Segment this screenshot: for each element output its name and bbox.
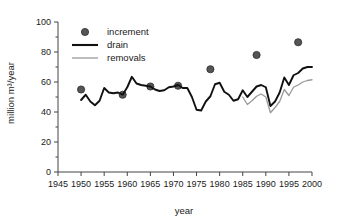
x-axis-tick-label: 1990: [256, 179, 276, 189]
x-axis-tick-label: 1960: [117, 179, 137, 189]
legend-label-increment: increment: [107, 26, 149, 37]
x-axis-tick-label: 1995: [279, 179, 299, 189]
y-axis-title: million m³/year: [5, 62, 16, 124]
y-axis-tick-label: 100: [36, 17, 51, 27]
x-axis-tick-label: 2000: [302, 179, 322, 189]
x-axis-tick-label: 1975: [187, 179, 207, 189]
x-axis-title: year: [175, 205, 193, 216]
x-axis-tick-label: 1970: [163, 179, 183, 189]
y-axis-tick-label: 20: [41, 137, 51, 147]
x-axis-tick-label: 1950: [71, 179, 91, 189]
x-axis-tick-label: 1980: [210, 179, 230, 189]
series-marker-increment: [207, 66, 214, 73]
x-axis-tick-label: 1965: [140, 179, 160, 189]
series-marker-increment: [295, 39, 302, 46]
y-axis-tick-label: 40: [41, 107, 51, 117]
series-marker-increment: [77, 86, 84, 93]
legend-label-removals: removals: [107, 52, 146, 63]
chart-container: 020406080100 194519501955196019651970197…: [0, 0, 337, 224]
x-axis-tick-label: 1985: [233, 179, 253, 189]
legend-marker-increment: [81, 28, 88, 35]
y-axis-tick-label: 0: [46, 167, 51, 177]
y-axis-tick-label: 60: [41, 77, 51, 87]
legend-label-drain: drain: [107, 39, 128, 50]
y-axis-tick-label: 80: [41, 47, 51, 57]
line-chart: 020406080100 194519501955196019651970197…: [0, 0, 337, 224]
x-axis-tick-label: 1955: [94, 179, 114, 189]
x-axis-tick-label: 1945: [48, 179, 68, 189]
series-marker-increment: [253, 51, 260, 58]
